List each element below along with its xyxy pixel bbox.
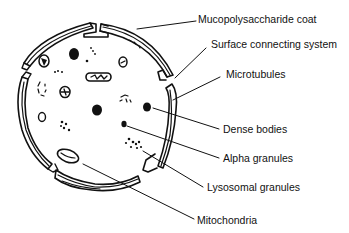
- dense-body-small: [86, 60, 89, 63]
- leader-line-microtubules: [173, 77, 220, 100]
- leader-line-mucopolysaccharide-coat: [137, 21, 196, 29]
- lysosomal-granules-cluster: [125, 138, 142, 149]
- membrane-segment-right: [158, 84, 177, 168]
- leader-line-surface-connecting-system: [175, 48, 206, 78]
- alpha-granule: [60, 87, 70, 98]
- dense-body: [121, 121, 126, 127]
- alpha-granule: [39, 55, 49, 67]
- label-surface-connecting-system: Surface connecting system: [211, 38, 337, 50]
- leader-line-lysosomal-granules: [143, 151, 203, 187]
- platelet-diagram: [0, 0, 349, 233]
- label-mitochondria: Mitochondria: [197, 214, 257, 226]
- alpha-granule: [39, 113, 46, 122]
- granule-cluster: [60, 121, 70, 132]
- label-alpha-granules: Alpha granules: [223, 152, 293, 164]
- organelles: [38, 40, 151, 165]
- dense-body: [143, 103, 151, 112]
- membrane-segment-top-left: [24, 23, 93, 66]
- label-microtubules: Microtubules: [226, 68, 286, 80]
- leader-line-dense-bodies: [153, 108, 219, 129]
- granule-cluster: [90, 47, 96, 55]
- label-mucopolysaccharide-coat: Mucopolysaccharide coat: [198, 13, 316, 25]
- alpha-granule: [119, 57, 127, 67]
- leader-line-mitochondria: [83, 164, 194, 219]
- granule-cluster: [54, 70, 63, 73]
- membrane-bottom-right-hook: [143, 154, 157, 172]
- dense-body: [69, 48, 79, 60]
- dense-body: [92, 105, 102, 116]
- microtubule-fragments: [38, 40, 140, 102]
- label-dense-bodies: Dense bodies: [223, 123, 287, 135]
- membrane-right-hook: [158, 70, 167, 80]
- membrane-segment-top-right: [100, 24, 173, 77]
- mitochondrion: [86, 73, 111, 81]
- label-lysosomal-granules: Lysosomal granules: [207, 181, 300, 193]
- mitochondrion: [56, 147, 81, 166]
